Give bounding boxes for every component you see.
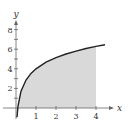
x-tick-label: 1 bbox=[33, 112, 38, 121]
y-tick-label: 8 bbox=[7, 26, 12, 35]
area-under-curve-chart: 1 2 3 4 x 2 4 6 8 y bbox=[0, 0, 128, 127]
x-axis-label: x bbox=[117, 103, 122, 113]
x-tick-label: 2 bbox=[53, 112, 58, 121]
x-tick-label: 4 bbox=[93, 112, 98, 121]
y-axis-label: y bbox=[12, 9, 19, 19]
y-axis-arrow-icon bbox=[14, 20, 18, 25]
y-axis: 2 4 6 8 y bbox=[7, 9, 19, 119]
y-tick-label: 6 bbox=[7, 45, 12, 54]
shaded-area bbox=[18, 46, 96, 108]
x-axis-arrow-icon bbox=[109, 106, 114, 110]
y-tick-label: 4 bbox=[7, 65, 12, 74]
x-tick-label: 3 bbox=[73, 112, 78, 121]
y-tick-label: 2 bbox=[7, 84, 12, 93]
